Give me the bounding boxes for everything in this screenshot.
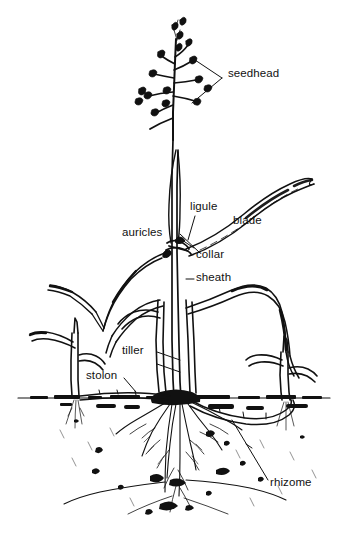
leaf-right-arching — [186, 285, 299, 378]
seedhead-panicle — [149, 39, 196, 140]
leader-lines — [124, 58, 268, 480]
label-auricles: auricles — [122, 227, 162, 239]
label-rhizome: rhizome — [270, 477, 312, 489]
upper-sheath — [169, 150, 181, 243]
label-sheath: sheath — [196, 272, 231, 284]
ligule-leader — [188, 216, 195, 240]
rhizome-leader — [232, 420, 268, 480]
rhizome-shoot-right — [246, 336, 317, 400]
soil-speckles — [74, 419, 305, 514]
leaf-left-shading — [50, 271, 136, 302]
stolon-leader — [124, 378, 136, 392]
stolon-shoot-shading — [30, 333, 46, 335]
root-system — [64, 403, 286, 514]
label-ligule: ligule — [190, 201, 217, 213]
label-collar: collar — [196, 249, 224, 261]
label-stolon: stolon — [86, 370, 117, 382]
label-seedhead: seedhead — [228, 68, 279, 80]
label-tiller: tiller — [122, 345, 144, 357]
stolon-shoot-left — [30, 318, 105, 396]
tiller-leader — [157, 352, 180, 360]
leaf-left-arching — [48, 253, 165, 331]
soil-hairlines — [60, 428, 316, 506]
label-blade: blade — [233, 215, 262, 227]
leaf-right-shading — [232, 286, 286, 350]
plant-drawing — [0, 0, 344, 553]
grass-morphology-figure: seedhead ligule blade auricles collar sh… — [0, 0, 344, 553]
tiller-leader-2 — [157, 364, 180, 372]
